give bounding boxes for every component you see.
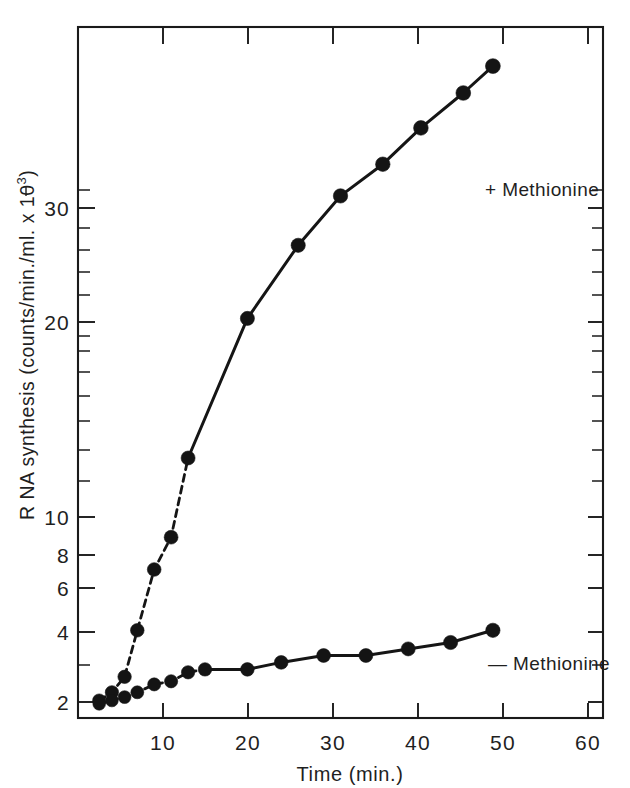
plus-methionine-line-dashed bbox=[99, 458, 188, 701]
y-tick-label-6: 6 bbox=[57, 577, 70, 600]
x-tick-label-20: 20 bbox=[235, 731, 261, 754]
x-axis-title: Time (min.) bbox=[297, 763, 404, 785]
x-tick-label-50: 50 bbox=[490, 731, 516, 754]
x-tick-label-30: 30 bbox=[320, 731, 346, 754]
y-axis-title-exponent: 3 bbox=[14, 177, 29, 185]
svg-text:R NA synthesis (counts/min./m: R NA synthesis (counts/min./ml. x 103) bbox=[14, 170, 38, 520]
plus-methionine-label: + Methionine bbox=[485, 179, 599, 200]
y-axis-title-close: ) bbox=[16, 170, 38, 177]
y-tick-label-20: 20 bbox=[44, 311, 70, 334]
y-axis-major-ticks bbox=[78, 208, 95, 702]
x-axis-top-ticks bbox=[163, 27, 588, 44]
y-tick-label-2: 2 bbox=[57, 691, 70, 714]
y-tick-label-10: 10 bbox=[44, 506, 70, 529]
y-tick-label-8: 8 bbox=[57, 544, 70, 567]
minus-methionine-markers bbox=[93, 623, 500, 710]
y-axis-right-ticks bbox=[588, 190, 603, 702]
rna-synthesis-chart: 10 20 30 40 50 60 Time (min.) bbox=[0, 0, 630, 788]
y-tick-label-30: 30 bbox=[44, 197, 70, 220]
minus-methionine-label: — Methionine bbox=[488, 653, 610, 674]
x-axis-ticks bbox=[163, 703, 588, 718]
x-tick-label-10: 10 bbox=[150, 731, 176, 754]
plus-methionine-line-solid bbox=[188, 66, 493, 458]
y-axis-minor-ticks bbox=[78, 190, 90, 665]
figure-container: 10 20 30 40 50 60 Time (min.) bbox=[0, 0, 630, 788]
x-tick-label-60: 60 bbox=[575, 731, 601, 754]
plot-frame bbox=[78, 27, 603, 718]
y-axis-title: R NA synthesis (counts/min./ml. x 103) bbox=[14, 170, 38, 520]
y-tick-label-4: 4 bbox=[57, 621, 70, 644]
plus-methionine-markers bbox=[93, 59, 501, 707]
x-tick-label-40: 40 bbox=[405, 731, 431, 754]
y-axis-title-main: R NA synthesis (counts/min./ml. x 10 bbox=[16, 184, 38, 520]
